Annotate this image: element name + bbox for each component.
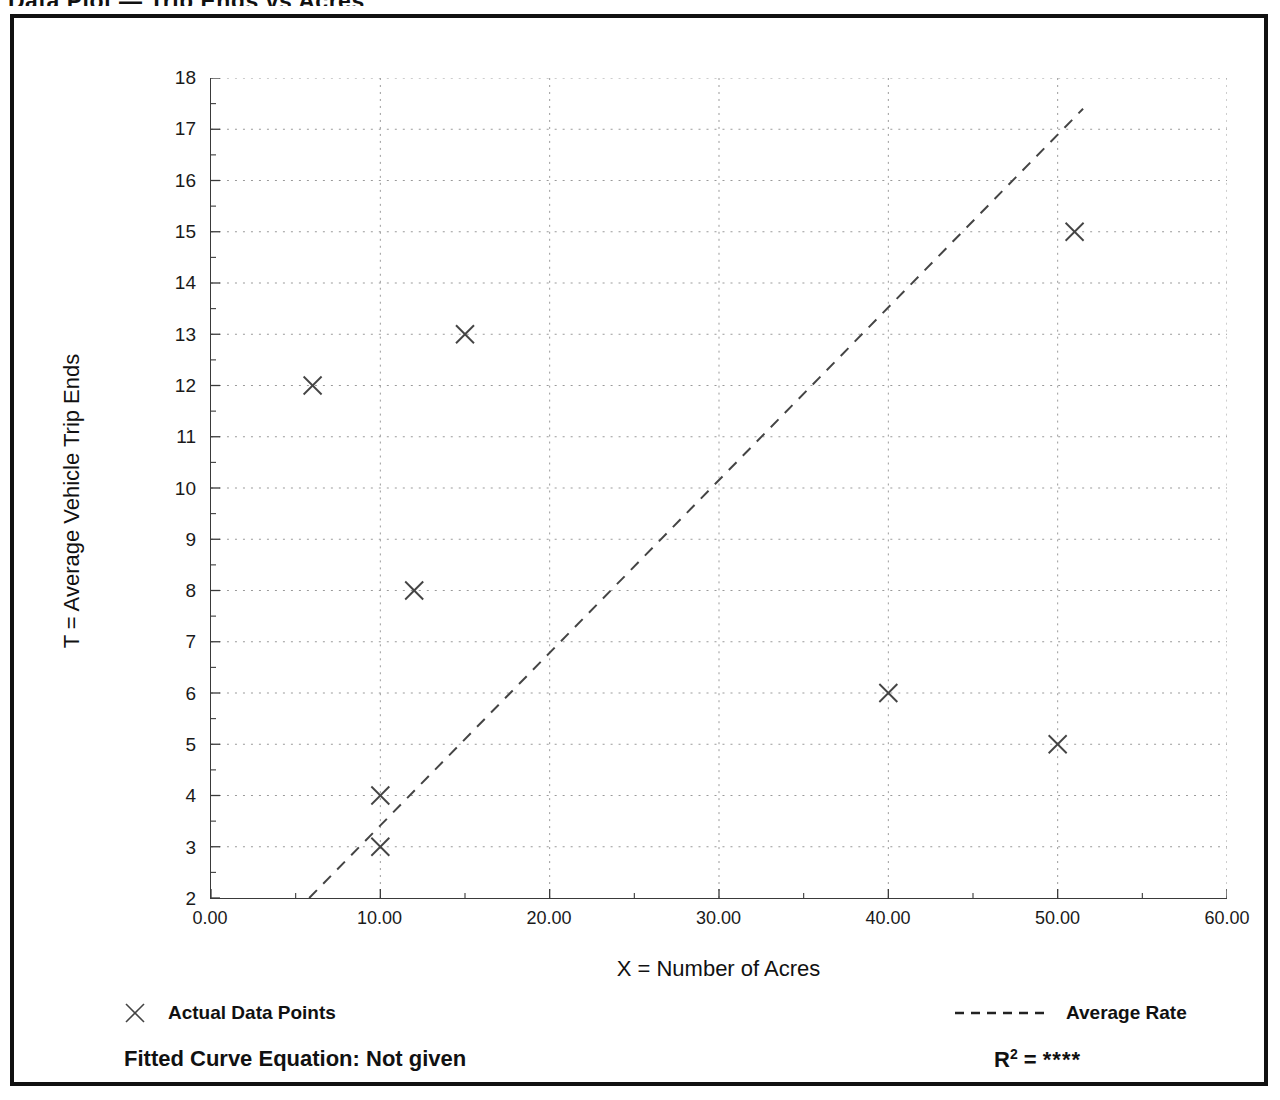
chart-footer: Fitted Curve Equation: Not given R2 = **… [14,1046,1264,1086]
x-axis-tick-label: 40.00 [865,908,910,929]
y-axis-tick-label: 12 [175,375,196,397]
r-squared-equals: = [1018,1047,1043,1072]
x-axis-title: X = Number of Acres [210,956,1227,982]
y-axis-tick-label: 15 [175,221,196,243]
legend-label-average-rate: Average Rate [1066,1002,1187,1024]
x-axis-tick-label: 50.00 [1035,908,1080,929]
fitted-curve-equation: Fitted Curve Equation: Not given [124,1046,466,1072]
x-axis-tick-label: 10.00 [357,908,402,929]
y-axis-tick-labels: 23456789101112131415161718 [124,78,196,899]
legend-item-actual-data-points: Actual Data Points [124,1002,336,1024]
y-axis-tick-label: 6 [185,683,196,705]
x-axis-tick-label: 30.00 [696,908,741,929]
x-marker-icon [124,1002,146,1024]
y-axis-tick-label: 17 [175,118,196,140]
y-axis-tick-label: 8 [185,580,196,602]
y-axis-tick-label: 10 [175,478,196,500]
r-squared-exponent: 2 [1010,1046,1018,1062]
page-title: Data Plot — Trip Ends vs Acres [8,0,365,6]
data-point-marker [1066,223,1084,241]
plot-svg [211,78,1227,898]
y-axis-tick-label: 13 [175,324,196,346]
y-axis-tick-label: 2 [185,888,196,910]
r-squared-annotation: R2 = **** [994,1046,1081,1073]
dashed-line-icon [954,1007,1046,1019]
y-axis-tick-label: 11 [176,426,196,448]
data-point-marker [371,787,389,805]
x-axis-tick-labels: 0.0010.0020.0030.0040.0050.0060.00 [210,908,1227,936]
r-squared-symbol: R [994,1047,1010,1072]
y-axis-tick-label: 18 [175,67,196,89]
x-axis-tick-label: 20.00 [526,908,571,929]
y-axis-tick-label: 16 [175,170,196,192]
x-axis-tick-label: 60.00 [1204,908,1249,929]
y-axis-tick-label: 5 [185,734,196,756]
y-axis-tick-label: 3 [185,837,196,859]
data-point-marker [456,325,474,343]
legend-label-actual-data-points: Actual Data Points [168,1002,336,1024]
data-point-marker [304,377,322,395]
chart-legend: Actual Data Points Average Rate [14,1002,1264,1036]
y-axis-title: T = Average Vehicle Trip Ends [59,181,85,821]
figure-frame: T = Average Vehicle Trip Ends 2345678910… [10,14,1268,1086]
y-axis-tick-label: 9 [185,529,196,551]
y-axis-tick-label: 7 [185,631,196,653]
y-axis-tick-label: 14 [175,272,196,294]
x-axis-tick-label: 0.00 [192,908,227,929]
legend-item-average-rate: Average Rate [954,1002,1187,1024]
y-axis-tick-label: 4 [185,785,196,807]
r-squared-value: **** [1043,1047,1081,1072]
plot-area [210,78,1227,899]
